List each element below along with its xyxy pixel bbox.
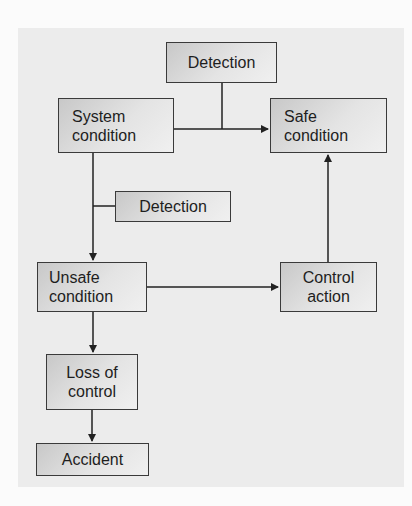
node-system-condition: System condition <box>58 98 174 153</box>
node-label: condition <box>72 126 173 145</box>
node-label: Control <box>303 268 355 287</box>
node-unsafe-condition: Unsafe condition <box>37 262 147 312</box>
node-safe-condition: Safe condition <box>270 98 387 153</box>
node-label: Accident <box>62 450 123 469</box>
node-label: condition <box>284 126 386 145</box>
node-accident: Accident <box>36 443 149 476</box>
node-label: Detection <box>188 53 256 72</box>
node-label: Safe <box>284 107 386 126</box>
node-detection-mid: Detection <box>115 191 231 222</box>
node-control-action: Control action <box>280 262 377 312</box>
node-label: action <box>307 287 350 306</box>
node-loss-of-control: Loss of control <box>46 354 138 410</box>
node-label: Unsafe <box>49 268 146 287</box>
node-label: Loss of <box>66 363 118 382</box>
node-label: Detection <box>139 197 207 216</box>
node-label: condition <box>49 287 146 306</box>
node-label: control <box>68 382 116 401</box>
node-label: System <box>72 107 173 126</box>
node-detection-top: Detection <box>166 42 277 83</box>
